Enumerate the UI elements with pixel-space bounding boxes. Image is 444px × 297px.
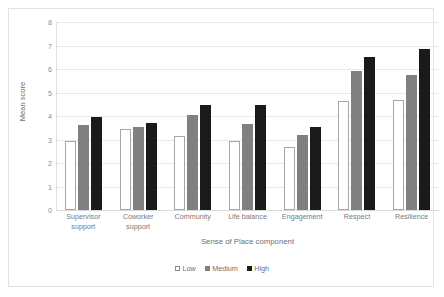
bar-group xyxy=(330,22,385,210)
bar-high[interactable] xyxy=(146,123,157,210)
y-axis-tick-label: 3 xyxy=(30,135,52,144)
chart-frame: Mean score 876543210 Supervisor supportC… xyxy=(8,8,434,287)
y-axis-tick-labels: 876543210 xyxy=(26,22,52,210)
y-axis-tick-label: 0 xyxy=(30,206,52,215)
bar-low[interactable] xyxy=(338,101,349,210)
x-axis-tick-label: Community xyxy=(165,212,220,231)
bar-group xyxy=(111,22,166,210)
legend-label: High xyxy=(254,264,269,273)
legend-label: Low xyxy=(182,264,195,273)
x-axis-tick-label: Supervisor support xyxy=(56,212,111,231)
bar-low[interactable] xyxy=(229,141,240,210)
bar-high[interactable] xyxy=(310,127,321,210)
y-axis-tick-label: 5 xyxy=(30,88,52,97)
x-axis-tick-label: Life balance xyxy=(220,212,275,231)
bar-high[interactable] xyxy=(255,105,266,210)
y-axis-tick-label: 1 xyxy=(30,182,52,191)
bar-group xyxy=(165,22,220,210)
y-axis-tick-label: 7 xyxy=(30,41,52,50)
x-axis-tick-label: Engagement xyxy=(275,212,330,231)
x-axis-title: Sense of Place component xyxy=(56,237,439,246)
chart-legend: LowMediumHigh xyxy=(9,264,435,273)
y-axis-tick-label: 2 xyxy=(30,159,52,168)
legend-label: Medium xyxy=(212,264,238,273)
bar-group xyxy=(220,22,275,210)
bar-high[interactable] xyxy=(200,105,211,210)
x-axis-tick-label: Respect xyxy=(330,212,385,231)
bar-medium[interactable] xyxy=(187,115,198,210)
bar-low[interactable] xyxy=(284,147,295,210)
legend-item-medium[interactable]: Medium xyxy=(205,264,238,273)
y-axis-tick-label: 8 xyxy=(30,18,52,27)
bar-low[interactable] xyxy=(65,141,76,210)
bar-medium[interactable] xyxy=(351,71,362,210)
bar-high[interactable] xyxy=(364,57,375,210)
bar-medium[interactable] xyxy=(242,124,253,210)
bar-group xyxy=(56,22,111,210)
bar-high[interactable] xyxy=(419,49,430,210)
bar-medium[interactable] xyxy=(406,75,417,210)
bar-group xyxy=(275,22,330,210)
x-axis-tick-label: Coworker support xyxy=(111,212,166,231)
bar-medium[interactable] xyxy=(133,127,144,210)
bar-medium[interactable] xyxy=(297,135,308,210)
bar-low[interactable] xyxy=(393,100,404,210)
y-axis-tick-label: 4 xyxy=(30,112,52,121)
bar-low[interactable] xyxy=(174,136,185,210)
legend-item-high[interactable]: High xyxy=(247,264,269,273)
bar-groups xyxy=(56,22,439,210)
gridline xyxy=(56,210,439,211)
legend-item-low[interactable]: Low xyxy=(175,264,196,273)
bar-low[interactable] xyxy=(120,129,131,210)
legend-swatch-icon xyxy=(247,266,252,271)
x-axis-tick-labels: Supervisor supportCoworker supportCommun… xyxy=(56,212,439,231)
bar-group xyxy=(384,22,439,210)
legend-swatch-icon xyxy=(175,266,180,271)
y-axis-tick-label: 6 xyxy=(30,65,52,74)
legend-swatch-icon xyxy=(205,266,210,271)
bar-high[interactable] xyxy=(91,117,102,210)
bar-medium[interactable] xyxy=(78,125,89,210)
x-axis-tick-label: Resilience xyxy=(384,212,439,231)
